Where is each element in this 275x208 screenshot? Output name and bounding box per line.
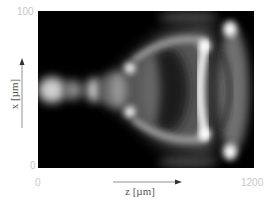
x-tick-max: 1200	[241, 178, 263, 188]
heatmap-plot	[38, 11, 254, 168]
intensity-map	[38, 11, 254, 168]
y-axis-label: x [µm]	[8, 74, 20, 114]
y-tick-min: 0	[30, 161, 36, 171]
x-axis-label: z [µm]	[125, 185, 155, 197]
y-tick-max: 100	[17, 7, 34, 17]
x-tick-min: 0	[35, 178, 41, 188]
figure: 100 0 0 1200 x [µm] z [µm]	[0, 0, 275, 208]
